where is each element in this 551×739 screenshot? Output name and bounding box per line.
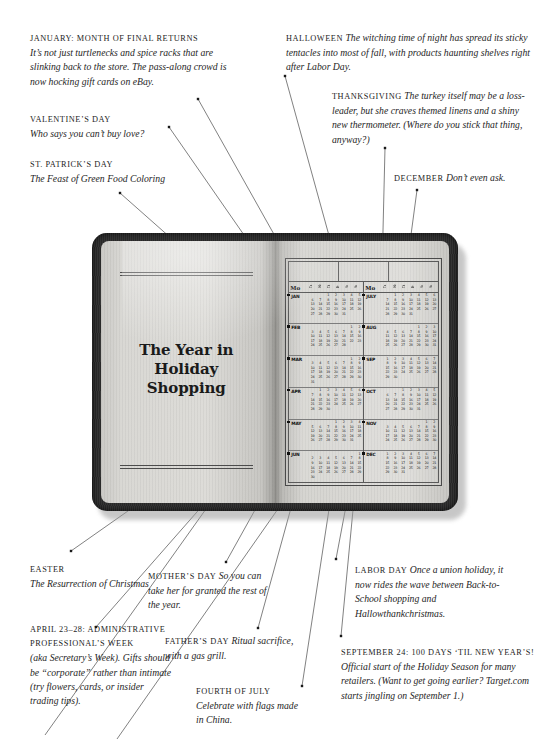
note-stpatricks-body: The Feast of Green Food Coloring	[30, 173, 165, 184]
leader-dot-december	[416, 189, 418, 191]
calendar-day: 27	[316, 438, 324, 443]
calendar-day: 27	[332, 343, 340, 348]
calendar-day: 27	[399, 343, 407, 348]
calendar-day	[355, 343, 363, 348]
calendar-day	[355, 438, 363, 443]
calendar-day: 28	[324, 438, 332, 443]
calendar-day: 29	[324, 312, 332, 317]
calendar-weekday-su: Su	[354, 281, 363, 292]
calendar-day: 20	[309, 307, 317, 312]
calendar-week-row: 30	[309, 475, 364, 480]
page-rule-top	[120, 272, 253, 276]
calendar-week-row: 28293031	[383, 312, 438, 317]
calendar-day: 28	[316, 312, 324, 317]
calendar-day: 26	[391, 343, 399, 348]
calendar-day	[423, 407, 431, 412]
calendar-month-grid-may: 1234567891011121314151617181920212223242…	[309, 420, 364, 451]
calendar-week-row: 2425262728	[309, 343, 364, 348]
calendar-day	[355, 312, 363, 317]
calendar-month-label-nov: NOV	[364, 420, 383, 451]
calendar-month-grid-sep: 1234567891011121314151617181920212223242…	[383, 356, 438, 387]
note-fourthofjuly-heading: Fourth of July	[196, 687, 271, 696]
calendar-day	[430, 407, 438, 412]
infographic-canvas: The Year in Holiday Shopping MoTuWeThFrS…	[0, 0, 551, 739]
calendar-day: 30	[423, 343, 431, 348]
calendar-month-grid-feb: 1234567891011121314151617181920212223242…	[309, 324, 364, 355]
calendar-day: 24	[383, 438, 391, 443]
calendar-day	[430, 470, 438, 475]
calendar-weekday-fr: Fr	[336, 281, 345, 292]
calendar-anchor-dot	[362, 389, 364, 391]
note-halloween-heading: Halloween	[286, 34, 343, 43]
calendar-weekday-header-row: MoTuWeThFrSaSu	[289, 282, 363, 293]
note-thanksgiving-heading: Thanksgiving	[332, 92, 402, 101]
note-december-body: Don’t even ask.	[446, 172, 505, 183]
calendar-day: 31	[309, 380, 317, 385]
calendar-day: 28	[309, 407, 317, 412]
note-january: January: Month of Final Returns It’s not…	[30, 32, 235, 89]
calendar-day: 30	[399, 312, 407, 317]
calendar-week-row: 2728293031	[309, 312, 364, 317]
calendar-day: 28	[391, 407, 399, 412]
calendar-day	[340, 475, 348, 480]
calendar-day	[355, 475, 363, 480]
note-easter-heading: Easter	[30, 563, 155, 577]
calendar-month-grid-jan: 1234567891011121314151617181920212223242…	[309, 293, 364, 324]
calendar-day: 28	[340, 343, 348, 348]
calendar-month-aug: AUG1234567891011121314151617181920212223…	[364, 324, 438, 356]
calendar-day	[309, 293, 317, 298]
calendar-day: 30	[332, 312, 340, 317]
calendar-month-grid-aug: 1234567891011121314151617181920212223242…	[383, 324, 438, 355]
calendar-day	[309, 325, 317, 330]
calendar-month-label-jun: JUN	[289, 451, 308, 482]
calendar-week-row: 262728293031	[309, 438, 364, 443]
calendar-day: 3	[309, 330, 317, 335]
note-september24-body: Official start of the Holiday Season for…	[341, 661, 529, 700]
calendar-month-grid-dec: 1234567891011121314151617181920212223242…	[383, 451, 438, 482]
calendar-day: 18	[316, 339, 324, 344]
calendar-month-grid-nov: 1234567891011121314151617181920212223242…	[383, 420, 438, 451]
calendar-day: 24	[309, 343, 317, 348]
calendar-anchor-dot	[362, 357, 364, 359]
calendar-week-row: 25262728293031	[383, 343, 438, 348]
leader-dot-thanksgiving	[384, 147, 386, 149]
calendar-day: 26	[324, 343, 332, 348]
leader-dot-mothers	[225, 561, 227, 563]
calendar-day	[316, 293, 324, 298]
leader-dot-stpatricks	[119, 192, 121, 194]
calendar-month-label-mar: MAR	[289, 356, 308, 387]
calendar-month-grid-mar: 1234567891011121314151617181920212223242…	[309, 356, 364, 387]
calendar-day: 17	[309, 339, 317, 344]
calendar-day	[332, 407, 340, 412]
calendar-weekday-sa: Sa	[345, 281, 354, 292]
calendar-day: 30	[340, 438, 348, 443]
calendar-anchor-dot	[362, 294, 364, 296]
calendar-header-mo: Mo	[289, 285, 308, 292]
calendar-month-jun: JUN1234567891011121314151617181920212223…	[289, 451, 363, 482]
note-administrative-heading: April 23–28: Administrative Professional…	[30, 623, 172, 651]
calendar-day: 14	[316, 302, 324, 307]
note-thanksgiving: Thanksgiving The turkey itself may be a …	[332, 89, 532, 147]
calendar-day: 29	[391, 312, 399, 317]
calendar-day	[348, 380, 356, 385]
calendar-anchor-dot	[287, 452, 289, 454]
calendar-month-nov: NOV1234567891011121314151617181920212223…	[364, 420, 438, 452]
calendar-weekday-header-row: MoTuWeThFrSaSu	[364, 282, 438, 293]
calendar-day	[430, 375, 438, 380]
calendar-weekday-tu: Tu	[383, 281, 392, 292]
note-fathers-heading: Father’s Day	[165, 637, 229, 646]
leader-dot-september24	[340, 635, 342, 637]
calendar-day	[332, 475, 340, 480]
calendar-day: 30	[407, 407, 415, 412]
calendar-day: 31	[407, 312, 415, 317]
calendar-day: 31	[415, 407, 423, 412]
calendar-day: 29	[332, 438, 340, 443]
calendar-week-row: 2930	[383, 375, 438, 380]
note-december-heading: December	[394, 174, 444, 183]
calendar-weekday-we: We	[393, 281, 402, 292]
calendar-day	[415, 312, 423, 317]
calendar-day: 30	[430, 438, 438, 443]
calendar-month-apr: APR1234567891011121314151617181920212223…	[289, 388, 363, 420]
note-labor: Labor Day Once a union holiday, it now r…	[355, 563, 519, 621]
calendar-weekday-tu: Tu	[309, 281, 318, 292]
